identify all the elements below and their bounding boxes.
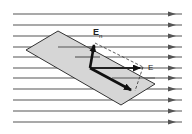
field-line-arrowheads [168,12,176,125]
field-label: E [148,64,153,72]
normal-component-label: En [93,28,102,39]
e-main-text: E [148,63,153,72]
en-subscript-text: n [99,33,102,39]
flux-diagram [0,0,192,134]
